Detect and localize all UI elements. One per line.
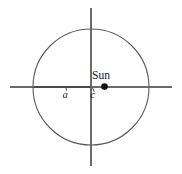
orbit-diagram-canvas — [0, 0, 182, 174]
orbit-diagram-figure: Sun a c — [0, 0, 182, 174]
sun-label: Sun — [92, 70, 110, 82]
center-offset-label: c — [91, 90, 96, 101]
sun-marker-dot — [101, 83, 108, 90]
semi-major-axis-label: a — [63, 90, 68, 101]
